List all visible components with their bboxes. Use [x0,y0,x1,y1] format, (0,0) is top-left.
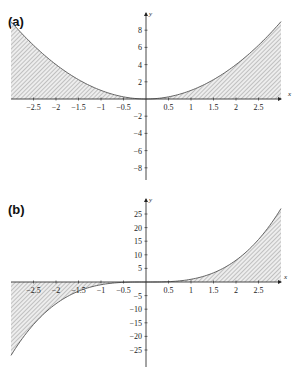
y-tick-label: −2 [133,112,142,121]
x-tick-label: −1.5 [71,103,86,112]
y-tick-label: −5 [133,292,142,301]
x-tick-label: 1.5 [209,103,219,112]
chart-figure: (a) −2.5−2−1.5−1−0.50.511.522.58642−2−4−… [0,0,301,380]
x-tick-label: −1 [97,286,106,295]
y-tick-label: −10 [129,305,142,314]
y-tick-label: −4 [133,129,142,138]
y-tick-label: 2 [138,78,142,87]
y-tick-label: −6 [133,147,142,156]
x-tick-label: −2.5 [26,286,41,295]
x-tick-label: 1 [189,286,193,295]
panel-b-y-axis-name: y [148,196,153,204]
y-tick-label: 10 [134,251,142,260]
x-tick-label: 0.5 [164,103,174,112]
panel-a-y-axis-name: y [148,10,153,18]
panel-a-x-axis-name: x [287,90,292,98]
y-tick-label: 20 [134,224,142,233]
x-tick-label: 2 [234,103,238,112]
y-tick-label: 25 [134,210,142,219]
x-tick-label: −1 [97,103,106,112]
x-tick-label: 2 [234,286,238,295]
x-tick-label: 2.5 [254,103,264,112]
x-tick-label: −2.5 [26,103,41,112]
y-tick-label: −20 [129,332,142,341]
x-tick-label: 1 [189,103,193,112]
y-tick-label: 15 [134,237,142,246]
panel-b-x-axis-name: x [283,273,288,281]
panel-a-parabola-plot: (a) −2.5−2−1.5−1−0.50.511.522.58642−2−4−… [8,10,292,180]
x-tick-label: −2 [52,103,61,112]
y-tick-label: −8 [133,164,142,173]
y-tick-label: −25 [129,346,142,355]
panel-b-label: (b) [8,202,25,217]
y-tick-label: 5 [138,264,142,273]
y-tick-label: 6 [138,43,142,52]
x-tick-label: 2.5 [254,286,264,295]
y-tick-label: 8 [138,26,142,35]
y-axis-arrow-icon [144,198,148,202]
x-tick-label: −2 [52,286,61,295]
x-tick-label: 1.5 [209,286,219,295]
y-tick-label: 4 [138,61,142,70]
x-tick-label: 0.5 [164,286,174,295]
x-tick-label: −0.5 [116,103,131,112]
y-axis-arrow-icon [144,12,148,16]
panel-b-cubic-plot: (b) −2.5−2−1.5−1−0.50.511.522.5252015105… [8,196,288,367]
y-tick-label: −15 [129,319,142,328]
x-tick-label: −1.5 [71,286,86,295]
x-tick-label: −0.5 [116,286,131,295]
